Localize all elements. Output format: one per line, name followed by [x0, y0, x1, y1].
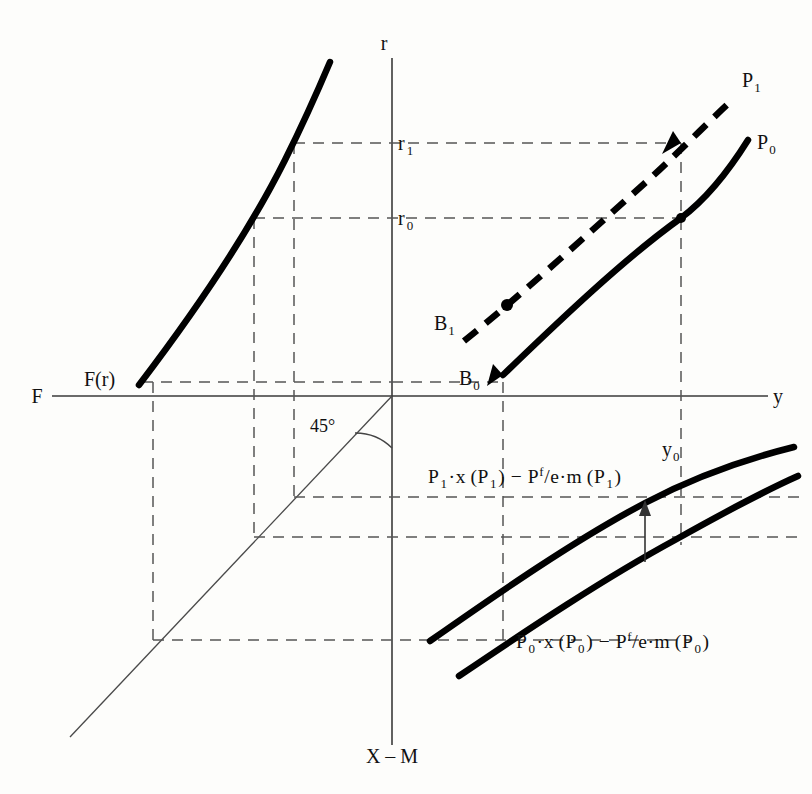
- formula-upper-trade-balance: P1·x (P1) − Pf/e·m (P1): [428, 464, 622, 491]
- curve-trade-balance-p0: [459, 476, 798, 676]
- forty-five-degree-line: [70, 396, 392, 737]
- curve-f-of-r: [139, 62, 330, 385]
- curve-label-p0-main: P: [757, 131, 768, 153]
- curve-label-p1: P1: [742, 69, 761, 95]
- tick-label-y0: y0: [662, 438, 680, 464]
- formula-lower-mid-sub: 0: [578, 641, 585, 656]
- tick-label-r0: r0: [398, 207, 413, 233]
- tick-label-r1: r1: [398, 132, 413, 158]
- curve-label-p1-sub: 1: [754, 80, 761, 95]
- curve-label-p0: P0: [757, 131, 776, 157]
- formula-upper-tail2: ): [615, 466, 622, 488]
- curve-label-f-of-r: F(r): [84, 368, 115, 391]
- formula-lower-p: P: [516, 631, 527, 652]
- axis-label-x-minus-m: X – M: [366, 745, 418, 767]
- curve-label-p0-sub: 0: [769, 142, 776, 157]
- formula-upper-tail1: /e·m (P: [544, 466, 605, 488]
- formula-upper-mid1: ·x (P: [449, 466, 490, 488]
- diagram-canvas: r X – M F y 45° r1 r0 y0 F(r) P1 P0 B1: [0, 0, 812, 794]
- formula-lower-trade-balance: P0·x (P0) − Pf/e·m (P0): [516, 629, 710, 656]
- b1-point-marker: [501, 299, 513, 311]
- tick-label-r1-sub: 1: [407, 143, 414, 158]
- formula-lower-mid1: ·x (P: [537, 631, 578, 653]
- p0-r0-point-marker: [676, 213, 686, 223]
- formula-lower-mid2: ) − P: [586, 631, 627, 653]
- curve-label-b0-sub: 0: [473, 378, 480, 393]
- curve-label-b1-main: B: [434, 312, 447, 334]
- formula-upper-mid-sub: 1: [490, 476, 497, 491]
- forty-five-degree-group: [70, 396, 392, 737]
- axis-label-r: r: [381, 32, 388, 54]
- axis-label-y: y: [773, 385, 783, 408]
- formula-lower-tail2: ): [703, 631, 710, 653]
- formula-upper-tail-sub: 1: [606, 476, 613, 491]
- curve-label-p1-main: P: [742, 69, 753, 91]
- tick-label-r0-main: r: [398, 207, 405, 229]
- tick-label-y0-main: y: [662, 438, 672, 461]
- curve-p0: [503, 140, 748, 375]
- economics-four-quadrant-diagram: r X – M F y 45° r1 r0 y0 F(r) P1 P0 B1: [0, 0, 812, 794]
- angle-label-45: 45°: [310, 416, 335, 436]
- curve-label-b0-main: B: [459, 367, 472, 389]
- axis-label-f: F: [31, 385, 42, 407]
- tick-label-r0-sub: 0: [407, 218, 414, 233]
- formula-upper-mid2: ) − P: [498, 466, 539, 488]
- formula-lower-tail-sub: 0: [694, 641, 701, 656]
- formula-lower-p-sub: 0: [528, 641, 535, 656]
- angle-arc: [355, 433, 392, 448]
- tick-label-r1-main: r: [398, 132, 405, 154]
- formula-lower-tail1: /e·m (P: [632, 631, 693, 653]
- tick-label-y0-sub: 0: [673, 449, 680, 464]
- curve-label-b1-sub: 1: [448, 323, 455, 338]
- formula-upper-p: P: [428, 466, 439, 487]
- formula-upper-p-sub: 1: [440, 476, 447, 491]
- curve-label-b1: B1: [434, 312, 455, 338]
- curve-label-b0: B0: [459, 367, 480, 393]
